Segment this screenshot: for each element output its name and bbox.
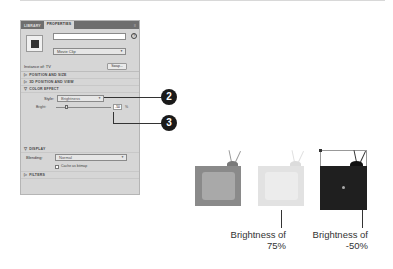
- tab-properties[interactable]: PROPERTIES: [44, 21, 75, 29]
- antenna-icon: [235, 151, 241, 162]
- brightness-label: Bright:: [36, 105, 46, 109]
- chevron-down-icon: ▼: [98, 96, 101, 101]
- panel-tabbar: LIBRARY PROPERTIES ≡: [21, 21, 139, 29]
- movie-clip-symbol-icon: [26, 35, 43, 52]
- help-icon[interactable]: ?: [131, 33, 137, 39]
- swap-button[interactable]: Swap...: [107, 63, 127, 70]
- registration-point-icon: [319, 149, 322, 152]
- section-position-size[interactable]: ▷POSITION AND SIZE: [21, 72, 139, 79]
- symbol-type-select[interactable]: Movie Clip ▼: [53, 48, 126, 55]
- chevron-down-icon: ▼: [120, 49, 123, 54]
- percent-label: %: [125, 105, 128, 109]
- top-rule: [20, 0, 385, 1]
- expand-triangle-icon: ▷: [24, 72, 27, 79]
- callout-badge-2: 2: [161, 89, 177, 105]
- brightness-row: Bright: -50 %: [21, 104, 139, 114]
- cache-row: Cache as bitmap: [21, 163, 139, 172]
- caption-brightness-75: Brightness of 75%: [218, 229, 286, 251]
- blending-row: Blending: Normal ▼: [21, 153, 139, 163]
- blending-value: Normal: [59, 155, 72, 160]
- instance-of-row: Instance of: TV Swap...: [21, 62, 139, 72]
- callout-2-line: [104, 97, 162, 98]
- tv-screen: [265, 172, 298, 200]
- brightness-value-input[interactable]: -50: [113, 104, 122, 110]
- style-value: Brightness: [61, 96, 80, 101]
- style-label: Style:: [44, 96, 54, 101]
- style-select[interactable]: Brightness ▼: [57, 95, 104, 102]
- style-row: Style: Brightness ▼: [21, 93, 139, 104]
- callout-3-line-h: [113, 123, 162, 124]
- symbol-type-value: Movie Clip: [57, 49, 76, 54]
- cache-as-bitmap-checkbox[interactable]: [55, 165, 59, 169]
- section-display[interactable]: ▽DISPLAY: [21, 146, 139, 153]
- transform-center-icon: [342, 186, 345, 189]
- properties-panel: LIBRARY PROPERTIES ≡ ? Movie Clip ▼ Inst…: [20, 20, 140, 195]
- tv-screen: [202, 172, 235, 200]
- instance-of-label: Instance of: TV: [24, 64, 51, 69]
- caption-75-line: [281, 210, 282, 228]
- blending-select[interactable]: Normal ▼: [55, 154, 127, 161]
- cache-as-bitmap-label: Cache as bitmap: [61, 164, 87, 168]
- blending-label: Blending:: [26, 155, 43, 160]
- antenna-icon: [298, 151, 304, 162]
- collapse-triangle-icon: ▽: [24, 86, 27, 93]
- brightness-slider-thumb[interactable]: [65, 105, 68, 109]
- caption-brightness-neg50: Brightness of -50%: [300, 229, 368, 251]
- section-3d-position-view[interactable]: ▷3D POSITION AND VIEW: [21, 79, 139, 86]
- callout-badge-3: 3: [161, 115, 177, 131]
- caption-neg50-line: [362, 210, 363, 228]
- instance-header: ? Movie Clip ▼: [21, 29, 139, 62]
- instance-name-input[interactable]: [53, 33, 126, 40]
- chevron-down-icon: ▼: [121, 155, 124, 160]
- expand-triangle-icon: ▷: [24, 79, 27, 86]
- section-color-effect[interactable]: ▽COLOR EFFECT: [21, 86, 139, 93]
- spacer: [21, 114, 139, 146]
- section-filters[interactable]: ▷FILTERS: [21, 172, 139, 179]
- panel-menu-icon[interactable]: ≡: [134, 23, 136, 28]
- collapse-triangle-icon: ▽: [24, 146, 27, 153]
- expand-triangle-icon: ▷: [24, 172, 27, 179]
